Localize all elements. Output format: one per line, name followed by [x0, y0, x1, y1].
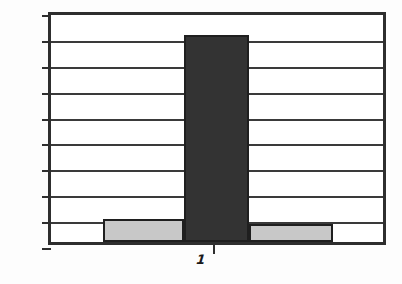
y-axis-tickmark: [42, 15, 51, 17]
bar-left: [103, 219, 184, 242]
y-axis-tickmark: [42, 222, 51, 224]
y-axis-tickmark: [42, 93, 51, 95]
y-axis-tickmark: [42, 144, 51, 146]
y-axis-tickmark: [42, 67, 51, 69]
y-axis-tickmark: [42, 248, 51, 250]
bar-right: [249, 224, 333, 242]
bar-middle: [184, 35, 249, 242]
y-axis-tickmark: [42, 196, 51, 198]
chart-container: 450400350300250200150100500 1: [0, 0, 402, 284]
y-axis-tickmark: [42, 41, 51, 43]
x-axis-label: 1: [0, 252, 402, 267]
y-axis-tickmark: [42, 170, 51, 172]
y-axis-tickmark: [42, 119, 51, 121]
plot-area: [48, 12, 386, 245]
